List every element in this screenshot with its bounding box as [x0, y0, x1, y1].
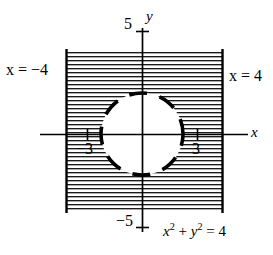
label-x-axis: x: [251, 125, 258, 140]
label-y-axis: y: [146, 9, 153, 24]
label-left-boundary: x = −4: [6, 62, 48, 78]
label-tick-y-bottom: −5: [116, 213, 133, 229]
label-tick-y-top: 5: [124, 16, 132, 32]
label-right-boundary: x = 4: [229, 68, 262, 84]
math-figure: x = −4 x = 4 y x 5 −5 −3 3 x2 + y2 = 4: [0, 0, 273, 255]
hatch-fill: [66, 50, 223, 212]
circle-eq-tail: = 4: [203, 223, 226, 239]
label-tick-x-positive: 3: [192, 141, 200, 157]
coordinate-plot: [0, 0, 273, 255]
shaded-region: [66, 50, 223, 212]
circle-eq-x: x: [163, 223, 170, 239]
circle-eq-plus: +: [175, 223, 191, 239]
label-tick-x-negative: −3: [76, 141, 93, 157]
label-circle-equation: x2 + y2 = 4: [163, 222, 226, 239]
